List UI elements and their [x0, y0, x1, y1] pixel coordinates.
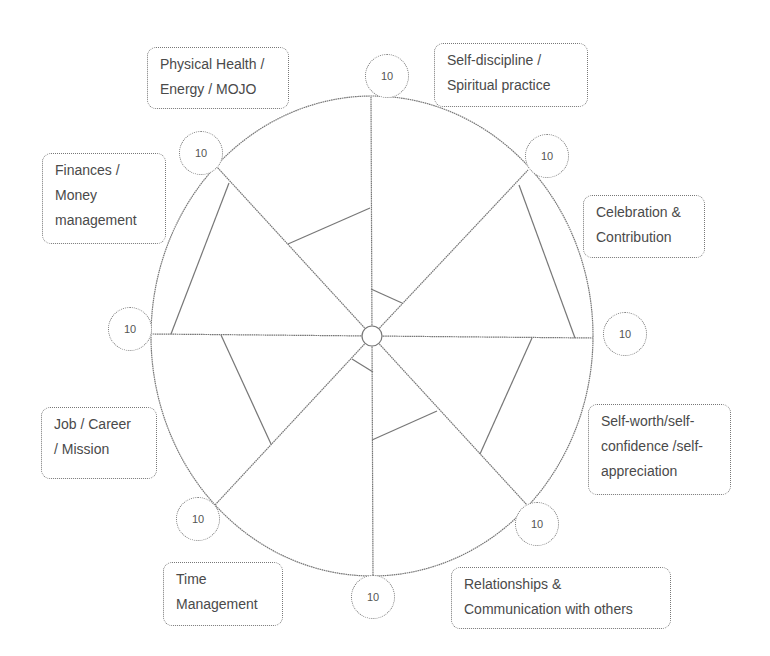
score-line-relationships [372, 411, 437, 440]
label-line: appreciation [601, 459, 730, 484]
label-self-worth: Self-worth/self-confidence /self-appreci… [588, 404, 731, 495]
label-line: Relationships & [464, 572, 670, 597]
label-line: Self-worth/self- [601, 409, 730, 434]
score-line-time-management [352, 359, 373, 372]
hub-circle [362, 326, 382, 346]
label-line: Spiritual practice [447, 73, 587, 98]
label-line: Job / Career [54, 412, 156, 437]
label-finances: Finances /Moneymanagement [42, 153, 166, 244]
score-bubble-finances: 10 [108, 307, 152, 351]
spoke-self-discipline [371, 97, 372, 336]
label-line: Celebration & [596, 200, 704, 225]
label-job-career: Job / Career/ Mission [41, 407, 157, 479]
score-bubble-physical-health: 10 [179, 131, 223, 175]
spoke-physical-health [217, 167, 372, 336]
score-line-celebration [519, 185, 575, 338]
score-bubble-self-discipline: 10 [365, 54, 409, 98]
label-line: Energy / MOJO [160, 77, 288, 102]
score-bubble-self-worth: 10 [603, 312, 647, 356]
label-self-discipline: Self-discipline /Spiritual practice [434, 43, 588, 107]
spoke-celebration [372, 170, 528, 336]
label-line: Management [176, 592, 282, 617]
label-physical-health: Physical Health /Energy / MOJO [147, 47, 289, 109]
label-line: confidence /self- [601, 434, 730, 459]
label-line: / Mission [54, 437, 156, 462]
score-segments [171, 183, 575, 454]
score-bubble-celebration: 10 [525, 134, 569, 178]
label-line: Self-discipline / [447, 48, 587, 73]
label-line: Finances / [55, 158, 165, 183]
label-relationships: Relationships &Communication with others [451, 567, 671, 629]
score-line-self-worth [480, 338, 532, 454]
label-line: Contribution [596, 225, 704, 250]
label-line: Physical Health / [160, 52, 288, 77]
score-line-self-discipline [371, 289, 402, 303]
label-line: Communication with others [464, 597, 670, 622]
spoke-finances [152, 334, 372, 336]
label-line: Money [55, 183, 165, 208]
spoke-self-worth [372, 336, 593, 338]
label-time-management: TimeManagement [163, 562, 283, 626]
spoke-job-career [215, 336, 372, 505]
score-line-job-career [221, 335, 271, 444]
label-line: management [55, 208, 165, 233]
score-line-physical-health [288, 208, 370, 244]
label-line: Time [176, 567, 282, 592]
spoke-relationships [372, 336, 527, 505]
label-celebration: Celebration &Contribution [583, 195, 705, 258]
score-bubble-time-management: 10 [351, 575, 395, 619]
score-bubble-relationships: 10 [515, 502, 559, 546]
score-line-finances [171, 183, 229, 334]
score-bubble-job-career: 10 [176, 497, 220, 541]
